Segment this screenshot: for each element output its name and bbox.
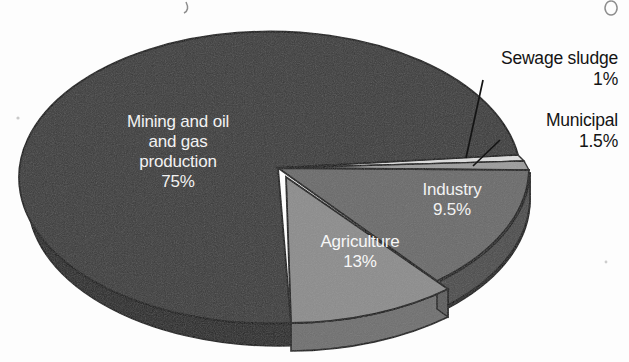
municipal-callout-label: Municipal 1.5%	[470, 110, 618, 152]
sewage-sludge-callout-label: Sewage sludge 1%	[440, 48, 618, 90]
scan-speck	[605, 261, 608, 264]
scan-artifact-top-left	[184, 2, 188, 13]
pie-chart-figure: Mining and oil and gas production 75% Ag…	[0, 0, 629, 362]
scan-speck	[16, 116, 19, 119]
scan-artifact-top-right	[605, 1, 617, 15]
